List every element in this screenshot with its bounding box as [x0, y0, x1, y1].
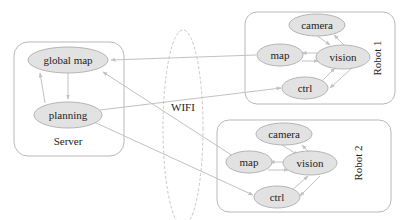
node-label: global map	[43, 54, 93, 66]
node-label: camera	[301, 19, 333, 31]
edge-planning-globalmap	[40, 73, 45, 103]
node-r1-ctrl: ctrl	[282, 77, 328, 99]
edge-r1-vision-camera	[334, 35, 344, 45]
node-r2-camera: camera	[256, 123, 312, 145]
edge-r1-camera-vision	[316, 35, 330, 45]
node-label: ctrl	[270, 191, 285, 203]
node-label: map	[240, 156, 259, 168]
node-global-map: global map	[28, 47, 108, 73]
node-r2-map: map	[226, 151, 272, 173]
robot1-label: Robot 1	[371, 40, 383, 75]
node-r2-vision: vision	[283, 151, 337, 175]
node-r2-ctrl: ctrl	[254, 186, 300, 208]
node-r1-camera: camera	[289, 14, 345, 36]
node-label: planning	[49, 109, 88, 121]
robot2-label: Robot 2	[352, 145, 364, 180]
node-r1-map: map	[257, 44, 303, 66]
edge-r2map-globalmap	[103, 72, 236, 158]
edge-r1map-globalmap	[111, 55, 256, 60]
node-label: map	[271, 49, 290, 61]
node-label: camera	[268, 128, 300, 140]
node-label: vision	[330, 51, 357, 63]
edge-r2-vision-ctrl	[300, 176, 320, 196]
server-label: Server	[54, 135, 83, 147]
wifi-label: WIFI	[171, 101, 195, 113]
node-label: ctrl	[298, 82, 313, 94]
node-planning: planning	[34, 102, 102, 128]
node-label: vision	[297, 157, 324, 169]
node-r1-vision: vision	[316, 45, 370, 69]
system-architecture-diagram: global map planning Server WIFI camera m…	[0, 0, 401, 220]
edge-r1-vision-ctrl	[330, 68, 352, 88]
